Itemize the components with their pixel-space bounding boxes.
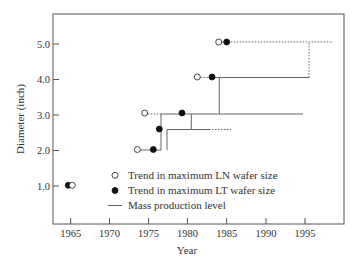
x-tick-labels: 1965 1970 1975 1980 1985 1990 1995 <box>60 228 315 239</box>
legend-filled-circle-icon <box>112 188 118 194</box>
legend-label-lt: Trend in maximum LT wafer size <box>128 184 275 196</box>
x-tick-label: 1970 <box>99 228 120 239</box>
x-tick-label: 1990 <box>256 228 277 239</box>
legend: Trend in maximum LN wafer size Trend in … <box>108 169 278 211</box>
lt-point <box>209 74 215 80</box>
legend-open-circle-icon <box>112 172 118 178</box>
mass-production-lines <box>137 42 333 150</box>
y-axis <box>53 44 59 186</box>
x-tick-label: 1965 <box>60 228 81 239</box>
legend-label-mass-production: Mass production level <box>128 199 226 211</box>
x-axis <box>71 218 305 224</box>
x-tick-label: 1975 <box>138 228 159 239</box>
x-axis-title: Year <box>177 244 198 256</box>
ln-point <box>194 74 200 80</box>
x-tick-label: 1985 <box>216 228 237 239</box>
lt-point <box>156 126 162 132</box>
x-tick-label: 1995 <box>295 228 316 239</box>
y-tick-label: 5.0 <box>37 39 50 50</box>
y-tick-label: 2.0 <box>37 145 50 156</box>
lt-point <box>150 147 156 153</box>
ln-point <box>216 39 222 45</box>
ln-point <box>69 182 75 188</box>
y-axis-title: Diameter (inch) <box>14 84 27 154</box>
chart: 5.0 4.0 3.0 2.0 1.0 Diameter (inch) 1965… <box>0 0 362 265</box>
y-tick-labels: 5.0 4.0 3.0 2.0 1.0 <box>37 39 50 192</box>
y-tick-label: 4.0 <box>37 74 50 85</box>
y-tick-label: 3.0 <box>37 110 50 121</box>
lt-point <box>224 39 230 45</box>
lt-point <box>179 110 185 116</box>
y-tick-label: 1.0 <box>37 181 50 192</box>
x-tick-label: 1980 <box>177 228 198 239</box>
legend-label-ln: Trend in maximum LN wafer size <box>128 169 278 181</box>
ln-point <box>142 110 148 116</box>
ln-point <box>134 147 140 153</box>
